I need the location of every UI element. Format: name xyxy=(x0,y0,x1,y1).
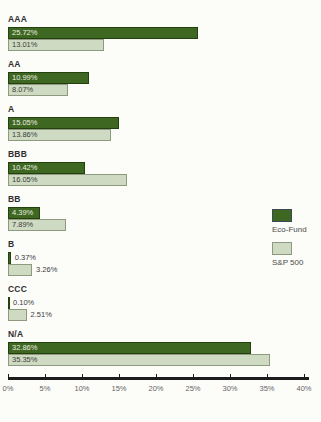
sp500-legend-label: S&P 500 xyxy=(272,258,318,267)
bar-group-ccc: CCC0.10%2.51% xyxy=(8,285,308,321)
bar-value-label: 25.72% xyxy=(9,28,37,38)
bar-value-label: 0.10% xyxy=(13,298,34,308)
eco-fund-bar xyxy=(8,252,11,264)
axis-tick-label: 25% xyxy=(185,384,200,393)
eco-fund-bar: 10.99% xyxy=(8,72,89,84)
sp500-bar-row: 7.89% xyxy=(8,219,308,231)
axis-tick-label: 20% xyxy=(148,384,163,393)
category-label: AA xyxy=(8,60,308,69)
bar-group-aaa: AAA25.72%13.01% xyxy=(8,15,308,51)
sp500-bar-row: 13.01% xyxy=(8,39,308,51)
category-label: AAA xyxy=(8,15,308,24)
bar-value-label: 8.07% xyxy=(9,85,33,95)
sp500-bar xyxy=(8,309,27,321)
bar-value-label: 3.26% xyxy=(36,265,57,275)
axis-tick-label: 0% xyxy=(3,384,14,393)
eco-fund-legend-label: Eco-Fund xyxy=(272,225,318,234)
sp500-bar-row: 16.05% xyxy=(8,174,308,186)
category-label: CCC xyxy=(8,285,308,294)
axis-tick xyxy=(8,374,9,378)
sp500-bar-row: 35.35% xyxy=(8,354,308,366)
sp500-bar-row: 2.51% xyxy=(8,309,308,321)
legend: Eco-Fund S&P 500 xyxy=(272,209,318,275)
axis-tick xyxy=(82,374,83,378)
eco-fund-bar-row: 25.72% xyxy=(8,27,308,39)
eco-fund-bar-row: 0.10% xyxy=(8,297,308,309)
bond-rating-bar-chart: AAA25.72%13.01%AA10.99%8.07%A15.05%13.86… xyxy=(0,0,321,422)
bar-value-label: 4.39% xyxy=(9,208,33,218)
bar-group-aa: AA10.99%8.07% xyxy=(8,60,308,96)
axis-tick xyxy=(230,374,231,378)
bar-group-a: A15.05%13.86% xyxy=(8,105,308,141)
axis-tick xyxy=(304,374,305,378)
eco-fund-bar-row: 10.99% xyxy=(8,72,308,84)
axis-tick xyxy=(193,374,194,378)
bar-value-label: 16.05% xyxy=(9,175,37,185)
eco-fund-bar: 4.39% xyxy=(8,207,40,219)
bar-value-label: 2.51% xyxy=(31,310,52,320)
bar-value-label: 35.35% xyxy=(9,355,37,365)
sp500-bar: 35.35% xyxy=(8,354,270,366)
bar-group-b: B0.37%3.26% xyxy=(8,240,308,276)
eco-fund-bar-row: 0.37% xyxy=(8,252,308,264)
bar-value-label: 13.01% xyxy=(9,40,37,50)
axis-tick-label: 30% xyxy=(222,384,237,393)
axis-tick xyxy=(156,374,157,378)
sp500-bar-row: 8.07% xyxy=(8,84,308,96)
eco-fund-bar: 32.86% xyxy=(8,342,251,354)
axis-tick-label: 40% xyxy=(296,384,311,393)
bar-group-bb: BB4.39%7.89% xyxy=(8,195,308,231)
axis-tick-label: 15% xyxy=(111,384,126,393)
x-axis-line xyxy=(8,377,309,380)
bar-value-label: 13.86% xyxy=(9,130,37,140)
eco-fund-bar-row: 15.05% xyxy=(8,117,308,129)
eco-fund-bar: 10.42% xyxy=(8,162,85,174)
sp500-bar: 16.05% xyxy=(8,174,127,186)
axis-tick xyxy=(45,374,46,378)
eco-fund-bar-row: 32.86% xyxy=(8,342,308,354)
category-label: BB xyxy=(8,195,308,204)
sp500-bar: 7.89% xyxy=(8,219,66,231)
eco-fund-bar-row: 4.39% xyxy=(8,207,308,219)
axis-tick xyxy=(267,374,268,378)
eco-fund-bar: 25.72% xyxy=(8,27,198,39)
category-label: B xyxy=(8,240,308,249)
category-label: A xyxy=(8,105,308,114)
eco-fund-bar: 15.05% xyxy=(8,117,119,129)
bar-group-bbb: BBB10.42%16.05% xyxy=(8,150,308,186)
sp500-bar: 13.86% xyxy=(8,129,111,141)
axis-tick-label: 10% xyxy=(74,384,89,393)
eco-fund-bar xyxy=(8,297,10,309)
sp500-bar-row: 3.26% xyxy=(8,264,308,276)
eco-fund-bar-row: 10.42% xyxy=(8,162,308,174)
bar-value-label: 0.37% xyxy=(15,253,36,263)
bar-group-n-a: N/A32.86%35.35% xyxy=(8,330,308,366)
axis-tick-label: 35% xyxy=(259,384,274,393)
bar-value-label: 10.99% xyxy=(9,73,37,83)
sp500-bar-row: 13.86% xyxy=(8,129,308,141)
eco-fund-swatch xyxy=(272,209,292,222)
bar-groups: AAA25.72%13.01%AA10.99%8.07%A15.05%13.86… xyxy=(8,15,308,375)
bar-value-label: 15.05% xyxy=(9,118,37,128)
bar-value-label: 10.42% xyxy=(9,163,37,173)
axis-tick xyxy=(119,374,120,378)
sp500-swatch xyxy=(272,242,292,255)
category-label: N/A xyxy=(8,330,308,339)
sp500-bar: 13.01% xyxy=(8,39,104,51)
axis-tick-label: 5% xyxy=(40,384,51,393)
bar-value-label: 32.86% xyxy=(9,343,37,353)
bar-value-label: 7.89% xyxy=(9,220,33,230)
sp500-bar xyxy=(8,264,32,276)
category-label: BBB xyxy=(8,150,308,159)
sp500-bar: 8.07% xyxy=(8,84,68,96)
